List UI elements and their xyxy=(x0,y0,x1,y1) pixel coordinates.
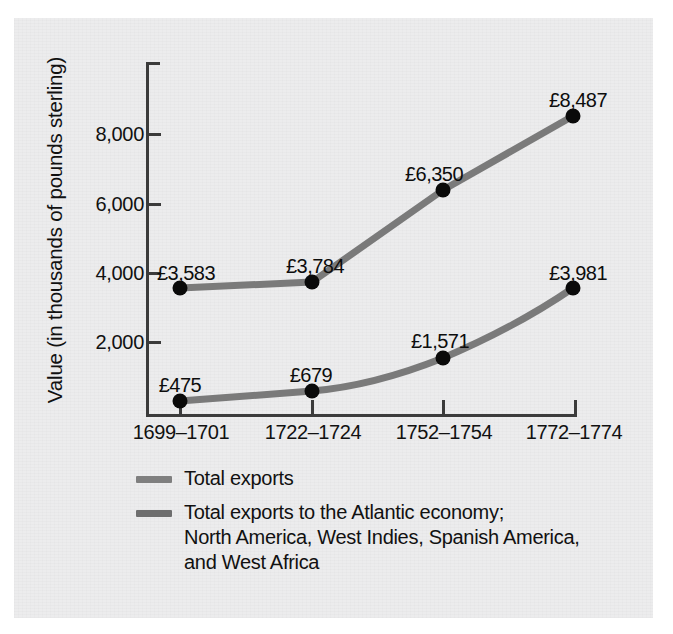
legend-swatch-total-exports xyxy=(136,476,172,483)
legend-label-atlantic-line-2: North America, West Indies, Spanish Amer… xyxy=(184,525,580,550)
chart-legend: Total exports Total exports to the Atlan… xyxy=(136,466,616,575)
data-label-total-exports-1699-1701: £3,583 xyxy=(116,262,256,285)
data-label-total-exports-1752-1754: £6,350 xyxy=(364,163,504,186)
legend-label-total-exports: Total exports xyxy=(184,466,294,491)
data-label-atlantic-exports-1699-1701: £475 xyxy=(110,374,250,397)
legend-label-atlantic-line-3: and West Africa xyxy=(184,550,580,575)
data-label-atlantic-exports-1752-1754: £1,571 xyxy=(370,330,510,353)
legend-item-atlantic-exports: Total exports to the Atlantic economy; N… xyxy=(136,500,616,575)
data-label-total-exports-1722-1724: £3,784 xyxy=(245,255,385,278)
legend-item-total-exports: Total exports xyxy=(136,466,616,491)
plot-area: 8,000 6,000 4,000 2,000 Value (in thousa… xyxy=(0,0,673,634)
legend-label-atlantic-line-1: Total exports to the Atlantic economy; xyxy=(184,500,580,525)
legend-label-atlantic-exports: Total exports to the Atlantic economy; N… xyxy=(184,500,580,575)
legend-swatch-atlantic-exports xyxy=(136,510,172,517)
data-label-total-exports-1772-1774: £8,487 xyxy=(508,89,648,112)
chart-figure: 8,000 6,000 4,000 2,000 Value (in thousa… xyxy=(0,0,673,634)
data-label-atlantic-exports-1722-1724: £679 xyxy=(241,364,381,387)
data-label-atlantic-exports-1772-1774: £3,981 xyxy=(508,262,648,285)
